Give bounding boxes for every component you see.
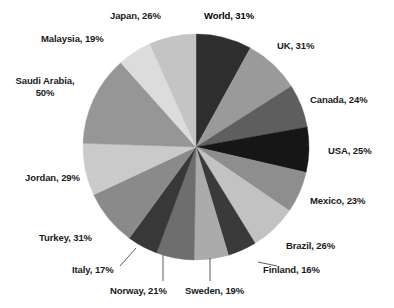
- pie-chart: World, 31% UK, 31% Canada, 24% USA, 25% …: [0, 0, 394, 308]
- slice-label-jordan: Jordan, 29%: [25, 172, 80, 184]
- slice-label-malaysia: Malaysia, 19%: [41, 33, 104, 45]
- slice-label-japan: Japan, 26%: [110, 10, 161, 22]
- slice-label-finland: Finland, 16%: [263, 264, 320, 276]
- leader-line-italy: [120, 248, 136, 266]
- slice-label-italy: Italy, 17%: [72, 264, 114, 276]
- slice-label-sweden: Sweden, 19%: [185, 285, 244, 297]
- slice-label-usa: USA, 25%: [328, 145, 372, 157]
- slice-label-world: World, 31%: [204, 10, 254, 22]
- slice-label-uk: UK, 31%: [277, 40, 314, 52]
- slice-label-norway: Norway, 21%: [110, 285, 167, 297]
- slice-label-turkey: Turkey, 31%: [39, 232, 92, 244]
- slice-label-brazil: Brazil, 26%: [286, 240, 335, 252]
- slice-label-mexico: Mexico, 23%: [310, 195, 365, 207]
- slice-label-canada: Canada, 24%: [310, 94, 368, 106]
- slice-label-saudi-arabia: Saudi Arabia, 50%: [6, 75, 84, 98]
- pie-slice-group: [83, 34, 309, 260]
